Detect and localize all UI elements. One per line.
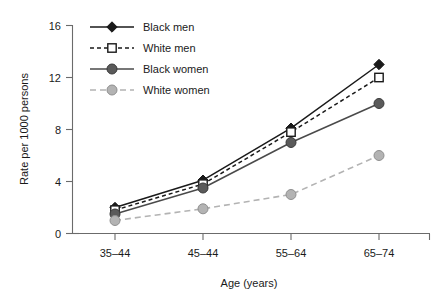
legend-label-0: Black men: [143, 21, 194, 33]
data-point: [198, 183, 208, 193]
data-point: [375, 73, 383, 81]
data-point: [374, 151, 384, 161]
x-tick-label-3: 55–64: [276, 247, 307, 259]
chart-container: 16 12 8 4 0 35–44 45–44 55–64 65–74 Age …: [0, 0, 446, 304]
data-point: [287, 128, 295, 136]
x-tick-label-2: 45–44: [188, 247, 219, 259]
legend-marker-1: [108, 44, 116, 52]
data-point: [110, 216, 120, 226]
x-tick-label-1: 35–44: [100, 247, 131, 259]
y-tick-label-12: 12: [49, 72, 61, 84]
x-axis-title: Age (years): [221, 277, 278, 289]
legend-marker-2: [107, 64, 117, 74]
data-point: [374, 59, 384, 69]
series-line-1: [115, 78, 379, 211]
y-tick-label-8: 8: [55, 124, 61, 136]
legend-marker-0: [107, 22, 117, 32]
data-point: [374, 99, 384, 109]
data-point: [286, 138, 296, 148]
chart-legend: Black menWhite menBlack womenWhite women: [90, 21, 210, 96]
legend-label-3: White women: [143, 84, 210, 96]
y-tick-label-16: 16: [49, 20, 61, 32]
y-axis-title: Rate per 1000 persons: [18, 73, 30, 185]
line-chart: 16 12 8 4 0 35–44 45–44 55–64 65–74 Age …: [0, 0, 446, 304]
data-point: [198, 204, 208, 214]
legend-label-2: Black women: [143, 63, 208, 75]
legend-marker-3: [107, 85, 117, 95]
y-tick-label-0: 0: [55, 228, 61, 240]
data-point: [286, 190, 296, 200]
x-tick-label-4: 65–74: [364, 247, 395, 259]
axis-group: 16 12 8 4 0 35–44 45–44 55–64 65–74 Age …: [18, 20, 430, 290]
y-tick-label-4: 4: [55, 176, 61, 188]
legend-label-1: White men: [143, 42, 196, 54]
